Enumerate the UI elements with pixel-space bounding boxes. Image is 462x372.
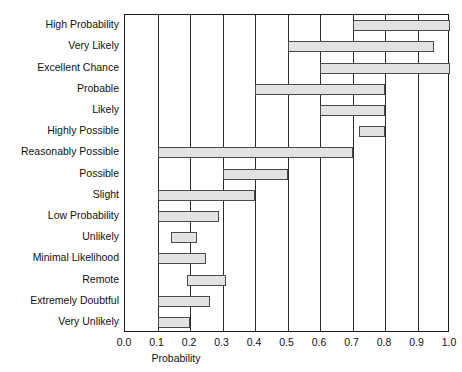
x-axis-tick-label: 0.1 <box>149 336 164 348</box>
x-axis-tick-group: 0.00.10.20.30.40.50.60.70.80.91.0 <box>0 336 462 352</box>
bar <box>158 211 220 222</box>
figure-canvas: High ProbabilityVery LikelyExcellent Cha… <box>0 0 462 372</box>
bar <box>223 169 288 180</box>
bar <box>158 147 353 158</box>
x-axis-tick-label: 0.0 <box>117 336 132 348</box>
bar <box>158 190 256 201</box>
y-axis-tick-label: Excellent Chance <box>37 62 119 73</box>
y-axis-tick-label: Highly Possible <box>47 125 119 136</box>
plot-area <box>124 14 449 332</box>
x-axis-tick-label: 0.9 <box>409 336 424 348</box>
bar <box>158 253 207 264</box>
bar <box>255 84 385 95</box>
x-axis-tick-label: 0.8 <box>377 336 392 348</box>
x-axis-tick-label: 0.3 <box>214 336 229 348</box>
y-axis-tick-label: Slight <box>93 189 119 200</box>
x-axis-title: Probability <box>0 352 462 364</box>
y-axis-tick-label: Very Unlikely <box>58 316 119 327</box>
y-axis-tick-label: Likely <box>92 104 119 115</box>
y-axis-tick-label: High Probability <box>45 19 119 30</box>
y-axis-tick-label: Extremely Doubtful <box>30 295 119 306</box>
x-axis-tick-label: 0.7 <box>344 336 359 348</box>
y-axis-tick-label: Remote <box>82 274 119 285</box>
bar <box>320 63 450 74</box>
bar <box>158 317 191 328</box>
bar <box>320 105 385 116</box>
x-axis-tick-label: 0.2 <box>182 336 197 348</box>
x-axis-tick-label: 0.6 <box>312 336 327 348</box>
x-axis-tick-label: 0.4 <box>247 336 262 348</box>
y-axis-tick-label: Very Likely <box>68 40 119 51</box>
x-axis-title-text: Probability <box>151 352 200 364</box>
clipped-title-strip <box>0 0 462 11</box>
y-axis-label-group: High ProbabilityVery LikelyExcellent Cha… <box>0 14 119 332</box>
bar-group <box>125 15 448 331</box>
y-axis-tick-label: Low Probability <box>48 210 119 221</box>
bar <box>353 20 451 31</box>
y-axis-tick-label: Possible <box>79 168 119 179</box>
y-axis-tick-label: Unlikely <box>82 231 119 242</box>
bar <box>171 232 197 243</box>
bar <box>359 126 385 137</box>
y-axis-tick-label: Probable <box>77 83 119 94</box>
bar <box>158 296 210 307</box>
bar <box>288 41 434 52</box>
x-axis-tick-label: 0.5 <box>279 336 294 348</box>
x-axis-tick-label: 1.0 <box>442 336 457 348</box>
y-axis-tick-label: Reasonably Possible <box>21 146 119 157</box>
y-axis-tick-label: Minimal Likelihood <box>33 252 119 263</box>
bar <box>187 275 226 286</box>
